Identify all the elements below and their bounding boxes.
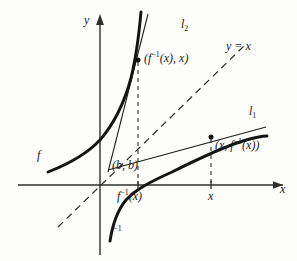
x-tick-label-f-inverse-of-x: f−1(x)	[117, 190, 142, 202]
diagram-canvas	[0, 0, 297, 261]
line-y-equals-x-label: y = x	[226, 40, 251, 52]
point-label-upper: (f−1(x), x)	[144, 52, 188, 64]
inverse-function-diagram: y x l2 l1 y = x f f−1 (f−1(x), x) (x, f−…	[0, 0, 297, 261]
point-label-bb: (b, b)	[112, 159, 138, 171]
curve-f-label: f	[37, 149, 40, 161]
point-label-lower: (x, f−1(x))	[215, 139, 259, 151]
point-marker-upper	[136, 58, 141, 63]
x-tick-label-x: x	[208, 190, 213, 202]
y-axis-label: y	[84, 14, 89, 26]
curve-f-inverse-label: f−1	[110, 226, 122, 238]
curve-f	[48, 12, 141, 172]
line-y-equals-x	[58, 44, 246, 227]
y-axis-arrowhead	[96, 14, 104, 25]
line-l2	[108, 14, 148, 172]
x-axis-label: x	[280, 183, 285, 195]
line-l2-label: l2	[181, 18, 188, 30]
line-l1-label: l1	[249, 105, 256, 117]
point-marker-lower	[209, 135, 214, 140]
